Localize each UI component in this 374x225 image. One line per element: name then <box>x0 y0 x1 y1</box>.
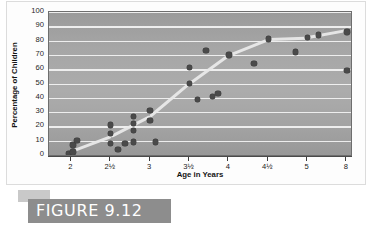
gridline <box>49 69 351 70</box>
data-point <box>70 149 75 154</box>
gridline <box>49 55 351 56</box>
trend-line-segment <box>307 29 347 39</box>
y-tick-label: 0 <box>18 150 44 158</box>
x-tick-mark <box>227 157 228 161</box>
y-tick-label: 100 <box>18 7 44 15</box>
data-point <box>115 147 120 152</box>
x-tick-mark <box>188 157 189 161</box>
data-point <box>74 138 79 143</box>
y-tick-label: 90 <box>18 21 44 29</box>
y-tick-label: 20 <box>18 121 44 129</box>
data-point <box>344 68 349 73</box>
data-point <box>153 139 158 144</box>
figure-caption: FIGURE 9.12 <box>36 201 143 220</box>
x-tick-mark <box>306 157 307 161</box>
y-tick-label: 70 <box>18 50 44 58</box>
data-point <box>215 91 220 96</box>
x-tick-mark <box>149 157 150 161</box>
data-point <box>108 141 113 146</box>
y-tick-label: 10 <box>18 136 44 144</box>
plot-area <box>48 11 352 156</box>
x-tick-mark <box>109 157 110 161</box>
scatter-chart: Percentage of Children 10090807060504030… <box>0 0 374 186</box>
y-axis-ticks: 1009080706050403020100 <box>14 11 44 156</box>
data-point <box>344 29 349 34</box>
figure-container: Percentage of Children 10090807060504030… <box>0 0 374 225</box>
data-point <box>131 114 136 119</box>
data-point <box>122 141 127 146</box>
data-point <box>226 52 231 57</box>
data-point <box>203 48 208 53</box>
data-point <box>131 128 136 133</box>
data-point <box>251 61 256 66</box>
y-tick-label: 60 <box>18 64 44 72</box>
gridline <box>49 84 351 85</box>
gridline <box>49 26 351 27</box>
data-point <box>147 118 152 123</box>
gridline <box>49 41 351 42</box>
x-tick-mark <box>70 157 71 161</box>
data-point <box>131 139 136 144</box>
gridline <box>49 126 351 127</box>
data-point <box>187 81 192 86</box>
x-tick-mark <box>345 157 346 161</box>
gridline <box>49 12 351 13</box>
x-axis-label: Age in Years <box>48 170 352 179</box>
x-tick-mark <box>267 157 268 161</box>
data-point <box>195 97 200 102</box>
y-tick-label: 30 <box>18 107 44 115</box>
data-point <box>266 36 271 41</box>
data-point <box>70 142 75 147</box>
gridline <box>49 112 351 113</box>
y-tick-label: 40 <box>18 93 44 101</box>
y-tick-label: 80 <box>18 36 44 44</box>
data-point <box>316 32 321 37</box>
y-tick-label: 50 <box>18 79 44 87</box>
